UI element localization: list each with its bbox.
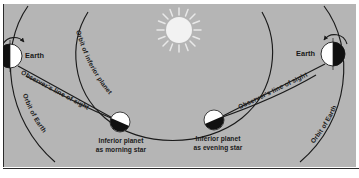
orbit-earth-right-label: Orbit of Earth xyxy=(309,104,338,144)
diagram-vector-layer: Orbit of inferior planet Orbit of Earth … xyxy=(0,0,359,178)
planet-evening-star-marker xyxy=(204,110,224,130)
planet-evening-star-label-line1: Inferior planet xyxy=(182,135,254,143)
planet-morning-star-label-line2: as morning star xyxy=(85,146,157,154)
planet-evening-star-label-line2: as evening star xyxy=(182,144,254,152)
earth-left-globe xyxy=(0,40,22,72)
planet-morning-star-label-line1: Inferior planet xyxy=(85,137,157,145)
orbit-inferior-planet-label: Orbit of inferior planet xyxy=(75,29,114,96)
earth-left-label: Earth xyxy=(25,52,44,60)
planet-morning-star-marker xyxy=(110,112,130,132)
astronomy-diagram-figure: Orbit of inferior planet Orbit of Earth … xyxy=(0,0,359,178)
line-of-sight-right-label: Observer's line of sight xyxy=(237,70,309,110)
earth-right-label: Earth xyxy=(296,50,315,58)
orbit-earth-right-path xyxy=(300,6,344,162)
sun-disc xyxy=(166,17,192,43)
orbit-earth-left-label: Orbit of Earth xyxy=(22,93,48,134)
